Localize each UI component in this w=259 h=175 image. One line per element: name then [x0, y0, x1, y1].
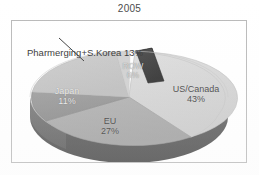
chart-title: 2005	[0, 3, 259, 14]
pie-label-japan: Japan 11%	[45, 87, 89, 106]
pie-label-pharmerging: Pharmerging+S.Korea 13%	[27, 47, 143, 58]
pie-label-eu-name: EU	[104, 116, 117, 126]
pie-label-us-canada-pct: 43%	[164, 95, 228, 105]
pie-label-eu: EU 27%	[89, 117, 131, 136]
pie-label-row: ROW 6%	[112, 62, 154, 80]
pie-label-eu-pct: 27%	[89, 127, 131, 137]
pie-label-row-pct: 6%	[112, 71, 154, 80]
pie-label-us-canada-name: US/Canada	[173, 84, 220, 94]
chart-plot-area: US/Canada 43% EU 27% Japan 11% ROW 6% Ph…	[11, 20, 247, 163]
pie-label-japan-pct: 11%	[45, 97, 89, 107]
pie-label-japan-name: Japan	[55, 86, 80, 96]
pie-label-us-canada: US/Canada 43%	[164, 85, 228, 104]
